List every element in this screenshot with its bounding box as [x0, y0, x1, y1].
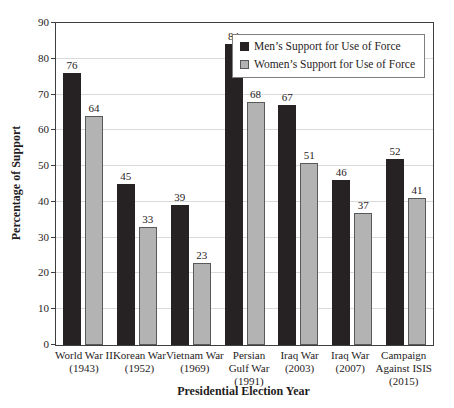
bar-chart-figure: Percentage of Support 766445333923846867… [0, 0, 454, 408]
men-bar-column: 45 [117, 23, 135, 345]
y-tick-mark [51, 272, 55, 273]
y-tick-label: 20 [0, 266, 49, 279]
y-tick-label: 0 [0, 338, 49, 351]
bar-value-label: 23 [196, 249, 207, 261]
bar-value-label: 45 [120, 170, 131, 182]
y-tick-mark [51, 129, 55, 130]
x-category-label: Iraq War(2003) [274, 349, 325, 388]
x-category-label: CampaignAgainst ISIS(2015) [375, 349, 432, 388]
bar-value-label: 52 [390, 145, 401, 157]
women-bar-column: 33 [139, 23, 157, 345]
legend-label-men: Men’s Support for Use of Force [254, 40, 401, 53]
y-tick-label: 80 [0, 52, 49, 65]
bar-value-label: 33 [142, 213, 153, 225]
x-category-label: Iraq War(2007) [325, 349, 376, 388]
y-tick-label: 70 [0, 88, 49, 101]
women-bar [408, 198, 426, 345]
x-category-label: World War II(1943) [55, 349, 113, 388]
y-tick-mark [51, 201, 55, 202]
bar-value-label: 37 [358, 199, 369, 211]
y-tick-label: 50 [0, 159, 49, 172]
bar-group: 7664 [56, 23, 110, 345]
women-bar-column: 64 [85, 23, 103, 345]
x-category-label: PersianGulf War(1991) [224, 349, 275, 388]
bar-value-label: 64 [88, 102, 99, 114]
men-bar [332, 180, 350, 345]
women-bar [139, 227, 157, 345]
y-tick-label: 60 [0, 123, 49, 136]
men-bar [225, 44, 243, 345]
men-bar-column: 76 [63, 23, 81, 345]
y-tick-label: 30 [0, 231, 49, 244]
y-tick-mark [51, 237, 55, 238]
legend-item-women: Women’s Support for Use of Force [240, 58, 415, 71]
women-bar [300, 163, 318, 345]
men-bar [117, 184, 135, 345]
bar-value-label: 51 [304, 149, 315, 161]
bar-value-label: 76 [66, 59, 77, 71]
bar-value-label: 68 [250, 88, 261, 100]
y-tick-mark [51, 344, 55, 345]
y-tick-mark [51, 22, 55, 23]
y-tick-mark [51, 165, 55, 166]
women-bar [354, 213, 372, 345]
women-bar-column: 23 [193, 23, 211, 345]
y-tick-label: 40 [0, 195, 49, 208]
men-series-swatch-icon [240, 42, 249, 51]
y-tick-mark [51, 308, 55, 309]
x-category-label: Korean War(1952) [113, 349, 166, 388]
bar-value-label: 41 [412, 184, 423, 196]
y-tick-mark [51, 94, 55, 95]
men-bar [63, 73, 81, 345]
y-tick-label: 10 [0, 302, 49, 315]
y-axis-title: Percentage of Support [9, 126, 24, 240]
y-tick-label: 90 [0, 16, 49, 29]
men-bar [278, 105, 296, 345]
bar-value-label: 46 [336, 166, 347, 178]
plot-area: 7664453339238468675146375241 Men’s Suppo… [55, 22, 434, 346]
legend-label-women: Women’s Support for Use of Force [254, 58, 415, 71]
x-category-label: Vietnam War(1969) [166, 349, 224, 388]
women-bar [193, 263, 211, 345]
x-axis-category-labels: World War II(1943)Korean War(1952)Vietna… [55, 349, 432, 388]
bar-value-label: 67 [282, 91, 293, 103]
bar-group: 3923 [164, 23, 218, 345]
bar-value-label: 39 [174, 191, 185, 203]
legend: Men’s Support for Use of Force Women’s S… [232, 34, 425, 78]
legend-item-men: Men’s Support for Use of Force [240, 40, 415, 53]
bar-group: 4533 [110, 23, 164, 345]
y-tick-mark [51, 58, 55, 59]
women-bar [247, 102, 265, 345]
x-axis-title: Presidential Election Year [55, 384, 432, 399]
men-bar [386, 159, 404, 345]
men-bar-column: 39 [171, 23, 189, 345]
women-bar [85, 116, 103, 345]
men-bar [171, 205, 189, 345]
women-series-swatch-icon [240, 60, 249, 69]
